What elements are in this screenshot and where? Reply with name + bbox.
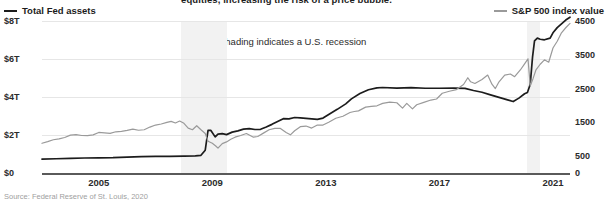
series-layer — [42, 21, 570, 173]
legend-line-swatch-icon — [4, 10, 17, 12]
plot-area — [42, 21, 570, 173]
x-axis-tick-label: 2017 — [429, 177, 450, 188]
chart-figure: equities, increasing the risk of a price… — [0, 0, 607, 206]
legend-label-total-fed-assets: Total Fed assets — [22, 5, 96, 16]
y-axis-right-tick-label: 0 — [575, 169, 580, 178]
y-axis-right-tick-label: 1500 — [575, 118, 595, 127]
y-axis-right-tick-label: 2500 — [575, 84, 595, 93]
y-axis-right-tick-label: 3500 — [575, 50, 595, 59]
x-axis-tick-label: 2021 — [542, 177, 563, 188]
y-axis-right-tick-label: 4500 — [575, 17, 595, 26]
series-line-total-fed-assets — [42, 17, 570, 159]
x-axis-line — [42, 173, 570, 175]
legend-total-fed-assets: Total Fed assets — [4, 5, 96, 16]
x-axis-tick-label: 2013 — [315, 177, 336, 188]
caption-fragment: equities, increasing the risk of a price… — [181, 0, 392, 5]
x-axis-tick-label: 2005 — [88, 177, 109, 188]
y-axis-right-tick-label: 500 — [575, 152, 590, 161]
y-axis-left-tick-label: $8T — [4, 17, 20, 26]
y-axis-left-tick-label: $6T — [4, 55, 20, 64]
x-axis-tick-label: 2009 — [202, 177, 223, 188]
y-axis-left-tick-label: $4T — [4, 93, 20, 102]
legend-line-swatch-icon — [494, 10, 507, 12]
legend-sp500-index-value: S&P 500 index value — [494, 5, 604, 16]
series-line-s-p-500-index-value — [42, 23, 570, 148]
y-axis-left-tick-label: $2T — [4, 131, 20, 140]
y-axis-left-tick-label: $0 — [4, 169, 14, 178]
source-note: Source: Federal Reserve of St. Louis, 20… — [4, 192, 148, 201]
legend-label-sp500-index-value: S&P 500 index value — [512, 5, 604, 16]
